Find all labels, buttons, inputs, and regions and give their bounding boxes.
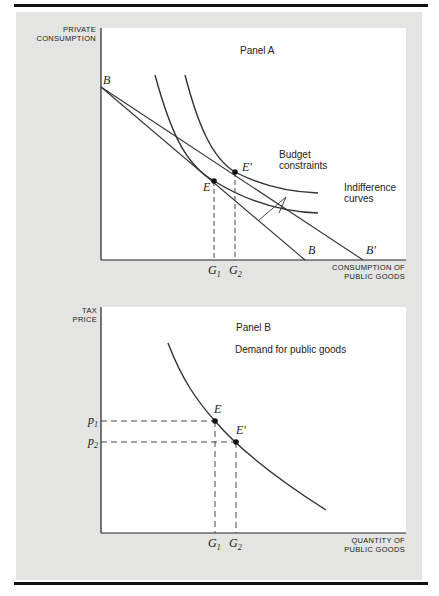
- label-p2: p2: [87, 434, 98, 450]
- panel-b-y-label-1: TAX: [82, 306, 97, 315]
- budget-label-2: constraints: [279, 160, 327, 171]
- panel-a-plot-area: [101, 28, 406, 260]
- panel-b-x-label-1: QUANTITY OF: [351, 536, 405, 545]
- panel-a-x-label-1: CONSUMPTION OF: [332, 263, 405, 272]
- label-e-prime-b: E′: [235, 423, 246, 437]
- panel-b-title: Panel B: [236, 322, 271, 333]
- point-e-marker: [211, 178, 217, 184]
- panel-b: Panel B Demand for public goods TAX PRIC…: [73, 306, 406, 554]
- indifference-label-2: curves: [344, 193, 373, 204]
- point-e-prime-marker: [232, 169, 238, 175]
- budget-label-1: Budget: [279, 149, 311, 160]
- label-b-prime: B′: [366, 243, 376, 257]
- panel-a-title: Panel A: [240, 45, 275, 56]
- label-g2-b: G2: [229, 536, 242, 552]
- panel-a-x-label-2: PUBLIC GOODS: [344, 272, 405, 281]
- label-g2-a: G2: [229, 263, 242, 279]
- label-b-axis: B: [308, 243, 316, 257]
- label-p1: p1: [87, 413, 98, 429]
- label-g1-b: G1: [208, 536, 221, 552]
- label-e-b: E: [213, 402, 222, 416]
- label-g1-a: G1: [208, 263, 221, 279]
- point-e-prime-marker-b: [233, 439, 239, 445]
- panel-b-plot-area: [101, 307, 406, 533]
- point-e-marker-b: [212, 418, 218, 424]
- panel-b-y-label-2: PRICE: [73, 315, 97, 324]
- label-b-top: B: [103, 73, 111, 87]
- panel-b-subtitle: Demand for public goods: [235, 344, 346, 355]
- indifference-label-1: Indifference: [344, 182, 397, 193]
- figure-canvas: Panel A PRIVATE CONSUMPTION CONSUMPTION …: [0, 0, 439, 596]
- label-e: E: [202, 180, 211, 194]
- panel-a-y-label-2: CONSUMPTION: [36, 34, 96, 43]
- panel-b-x-label-2: PUBLIC GOODS: [344, 545, 405, 554]
- panel-a: Panel A PRIVATE CONSUMPTION CONSUMPTION …: [36, 25, 406, 281]
- panel-a-y-label-1: PRIVATE: [63, 25, 96, 34]
- label-e-prime: E′: [241, 160, 252, 174]
